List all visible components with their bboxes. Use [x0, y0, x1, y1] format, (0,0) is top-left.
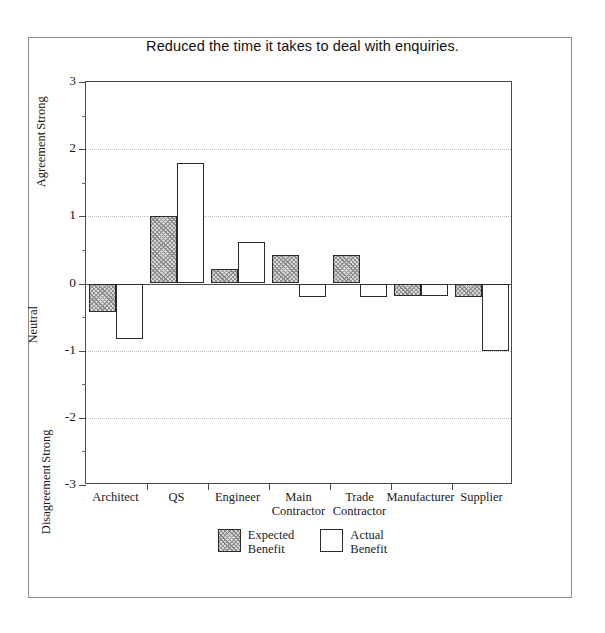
legend-swatch-expected [218, 529, 241, 552]
bar-actual [360, 284, 387, 297]
y-axis-caption-strong-agreement: Strong Agreement [35, 92, 49, 192]
y-tick-minor [82, 116, 86, 117]
y-tick-major [79, 485, 86, 486]
bar-actual [299, 284, 326, 297]
x-axis-label: Supplier [434, 490, 530, 504]
y-tick-minor [82, 250, 86, 251]
bar-actual [177, 163, 204, 284]
bar-actual [238, 242, 265, 284]
x-tick [391, 483, 392, 490]
bar-expected [394, 284, 421, 296]
legend-label: ExpectedBenefit [248, 528, 295, 557]
x-axis-label-line2: Contractor [333, 504, 386, 518]
x-tick [269, 483, 270, 490]
y-tick-minor [82, 451, 86, 452]
bar-actual [421, 284, 448, 296]
legend-label: ActualBenefit [350, 528, 387, 557]
y-tick-major [79, 82, 86, 83]
y-tick-label: 0 [50, 275, 76, 291]
y-tick-major [79, 149, 86, 150]
bar-expected [272, 255, 299, 283]
bar-expected [211, 269, 238, 283]
legend-label-line1: Actual [350, 528, 387, 542]
y-tick-label: 3 [50, 73, 76, 89]
legend-swatch-actual [320, 529, 343, 552]
y-axis-caption-neutral: Neutral [27, 275, 41, 375]
bar-actual [482, 284, 509, 351]
x-tick [208, 483, 209, 490]
y-tick-label: 1 [50, 207, 76, 223]
bar-expected [333, 255, 360, 283]
x-tick [147, 483, 148, 490]
legend-label-line2: Benefit [248, 542, 295, 556]
legend-label-line1: Expected [248, 528, 295, 542]
x-tick [330, 483, 331, 490]
y-tick-label: -1 [50, 342, 76, 358]
y-tick-minor [82, 317, 86, 318]
bar-expected [89, 284, 116, 313]
legend-item: ActualBenefit [320, 528, 387, 557]
x-axis-label-line1: Supplier [460, 490, 502, 504]
y-caption-agreement-line2: Agreement [35, 132, 49, 188]
x-tick [452, 483, 453, 490]
x-axis-label-line1: QS [169, 490, 185, 504]
y-tick-label: -2 [50, 409, 76, 425]
legend-label-line2: Benefit [350, 542, 387, 556]
y-tick-minor [82, 384, 86, 385]
x-axis-label-line1: Trade [345, 490, 374, 504]
x-axis-label-line1: Main [285, 490, 311, 504]
plot-area [85, 81, 512, 484]
bar-expected [455, 284, 482, 297]
y-tick-major [79, 216, 86, 217]
y-tick-major [79, 284, 86, 285]
legend-item: ExpectedBenefit [218, 528, 295, 557]
y-tick-major [79, 418, 86, 419]
y-tick-major [79, 351, 86, 352]
bar-actual [116, 284, 143, 339]
legend: ExpectedBenefitActualBenefit [0, 528, 605, 557]
y-tick-minor [82, 183, 86, 184]
y-tick-label: 2 [50, 140, 76, 156]
y-axis-tick-labels: 3210-1-2-3 [48, 81, 76, 484]
page-title: Reduced the time it takes to deal with e… [0, 38, 605, 54]
y-caption-agreement-line1: Strong [35, 96, 49, 129]
bar-expected [150, 216, 177, 283]
